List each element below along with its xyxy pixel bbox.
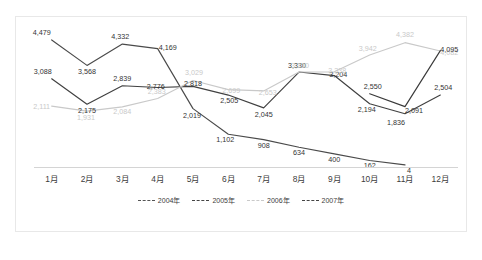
legend-item-2004年[interactable]: 2004年 [138,195,181,205]
data-label: 2,699 [222,87,240,94]
data-label: 400 [328,156,340,163]
data-label: 908 [258,142,270,149]
x-axis-tick-labels: 1月2月3月4月5月6月7月8月9月10月11月12月 [34,172,458,188]
legend-item-2005年[interactable]: 2005年 [192,195,235,205]
data-label: 2,084 [113,108,131,115]
x-tick-12: 12月 [423,172,458,188]
x-tick-7: 7月 [246,172,281,188]
series-line-2005年 [52,72,441,114]
series-line-2006年 [52,43,441,111]
legend-label: 2004年 [158,195,181,205]
legend-item-2006年[interactable]: 2006年 [247,195,290,205]
data-label: 3,029 [185,70,203,77]
data-label: 2,504 [434,84,452,91]
data-label: 2,550 [364,83,382,90]
chart-legend: 2004年2005年2006年2007年 [16,193,466,207]
legend-line-icon [138,200,155,201]
data-label: 4,382 [396,31,414,38]
legend-item-2007年[interactable]: 2007年 [302,195,345,205]
data-label: 2,818 [184,81,202,88]
data-label: 1,836 [387,119,405,126]
data-label: 2,505 [220,97,238,104]
data-label: 2,019 [183,112,201,119]
data-label: 2,111 [33,103,50,110]
x-tick-10: 10月 [352,172,387,188]
data-label: 2,653 [259,89,277,96]
legend-line-icon [302,200,319,201]
x-tick-3: 3月 [105,172,140,188]
x-tick-2: 2月 [69,172,104,188]
series-line-2007年 [370,51,441,107]
legend-label: 2005年 [212,195,235,205]
data-label: 4,332 [111,33,129,40]
data-label: 4,479 [33,29,51,36]
data-label: 3,338 [328,67,346,74]
x-tick-8: 8月 [281,172,316,188]
data-label: 3,330 [291,62,309,69]
x-tick-1: 1月 [34,172,69,188]
legend-label: 2007年 [322,195,345,205]
data-label: 1,102 [216,137,234,144]
data-label: 4,095 [440,46,458,53]
data-label: 4,169 [159,44,177,51]
legend-line-icon [247,200,264,201]
x-tick-11: 11月 [387,172,422,188]
x-tick-5: 5月 [175,172,210,188]
x-tick-9: 9月 [317,172,352,188]
x-axis-line [34,167,458,168]
data-label: 634 [293,150,305,157]
data-label: 3,942 [359,45,377,52]
data-label: 2,383 [148,89,166,96]
data-label: 3,088 [34,68,52,75]
data-label: 2,091 [405,107,423,114]
chart-container: 4,4793,5684,3324,1692,0191,1029086344001… [15,16,467,232]
x-tick-4: 4月 [140,172,175,188]
data-label: 2,194 [358,106,376,113]
x-tick-6: 6月 [211,172,246,188]
data-label: 3,568 [78,69,96,76]
data-label: 2,045 [255,111,273,118]
legend-label: 2006年 [267,195,290,205]
legend-line-icon [192,200,209,201]
data-label: 1,931 [77,114,95,121]
data-label: 2,839 [113,75,131,82]
